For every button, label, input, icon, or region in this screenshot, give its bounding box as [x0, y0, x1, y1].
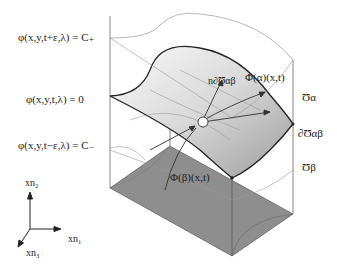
- label-region-alpha: Ʊα: [302, 92, 316, 103]
- label-axis-right: xn₁: [68, 234, 82, 244]
- interface-point: [198, 117, 208, 127]
- label-axis-up: xn₂: [25, 178, 39, 188]
- coordinate-axes: [18, 192, 61, 247]
- base-block: [110, 146, 293, 256]
- level-set-diagram: φ(x,y,t+ε,λ) = C₊ φ(x,y,t,λ) = 0 φ(x,y,t…: [0, 0, 337, 272]
- label-phi-beta: Φ(β)(x,t): [170, 172, 210, 183]
- label-axis-diag: xn₃: [26, 248, 40, 258]
- label-zero-level: φ(x,y,t,λ) = 0: [26, 94, 84, 105]
- label-interface: ∂Ʊαβ: [298, 128, 323, 139]
- label-normal-vector: n∂Ʊαβ: [208, 76, 236, 86]
- label-lower-level: φ(x,y,t−ε,λ) = C₋: [18, 140, 94, 151]
- label-phi-alpha: Φ(α)(x,t): [245, 72, 285, 83]
- label-region-beta: Ʊβ: [302, 162, 316, 173]
- label-upper-level: φ(x,y,t+ε,λ) = C₊: [18, 32, 94, 43]
